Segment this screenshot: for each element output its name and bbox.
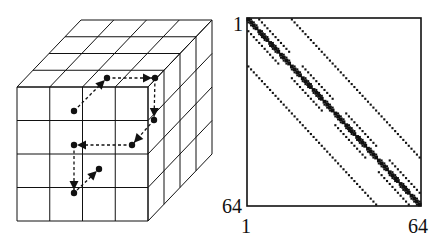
col-label-right: 64 [408, 215, 428, 237]
row-label-top: 1 [233, 13, 243, 35]
arrowhead-icon [70, 181, 79, 190]
path-node-dot [96, 166, 102, 172]
arrowhead-icon [77, 141, 86, 150]
figure: 1 64 1 64 [0, 0, 443, 241]
arrowhead-icon [95, 80, 105, 90]
arrowhead-icon [150, 108, 159, 117]
arrowhead-icon [143, 74, 152, 83]
path-node-dot [129, 142, 135, 148]
path-node-dot [71, 190, 77, 196]
sparsity-matrix [246, 18, 421, 207]
cube-grid-diagram [17, 20, 212, 221]
row-label-bottom: 64 [222, 195, 242, 217]
path-node-dot [151, 117, 157, 123]
col-label-left: 1 [241, 215, 251, 237]
path-node-dot [71, 142, 77, 148]
path-node-dot [71, 108, 77, 114]
path-node-dot [104, 75, 110, 81]
path-node-dot [152, 75, 158, 81]
arrowhead-icon [87, 171, 97, 180]
